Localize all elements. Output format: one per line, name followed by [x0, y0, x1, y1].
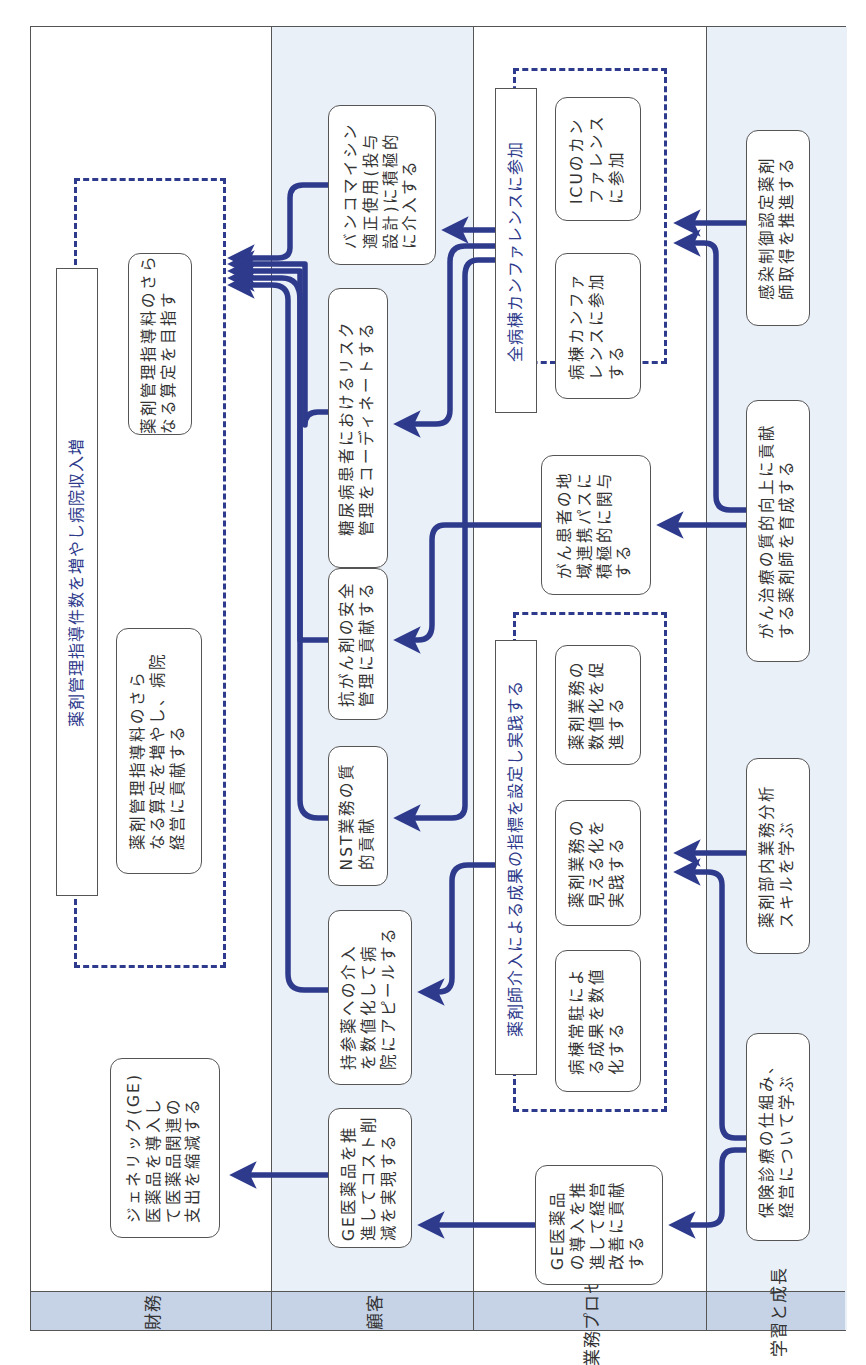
perspective-label-customer: 顧客 [271, 1292, 473, 1330]
node-lea-analysis: 薬剤部内業務分析 スキルを学ぶ [746, 758, 810, 954]
node-fin-generic: ジェネリック(GE) 医薬品を導入し て医薬品関連の 支出を縮減する [110, 1058, 220, 1238]
node-pro-icu: ICUのカン ファレンス に参加 [555, 97, 641, 221]
group-conference-title: 全病棟カンファレンスに参加 [495, 88, 537, 413]
node-fin-fee-goal: 薬剤管理指導料のさら なる算定を目指す [128, 253, 192, 435]
perspective-label-learning: 学習と成長 [706, 1292, 847, 1330]
node-pro-cancer-path: がん患者の地 域連携パスに 積極的に関与 する [541, 455, 651, 595]
perspective-label-financial: 財務 [31, 1292, 271, 1330]
node-lea-infection: 感染制御認定薬剤 師取得を推進する [746, 130, 810, 326]
perspective-header-strip: 財務 顧客 業務プロセス 学習と成長 [31, 1291, 845, 1330]
node-cus-vancomycin: バンコマイシン 適正使用(投与 設計)に積極的 に介入する [328, 105, 436, 265]
node-cus-nst: NST業務の質 的貢献 [328, 746, 388, 886]
node-pro-ward-conf: 病棟カンファ レンスに参加 する [555, 253, 641, 399]
node-lea-cancer-quality: がん治療の質的向上に貢献 する薬剤師を育成する [746, 400, 810, 662]
node-lea-insurance: 保険診療の仕組み、 経営について学ぶ [746, 1033, 810, 1241]
group-revenue-title: 薬剤管理指導件数を増やし病院収入増 [56, 268, 98, 896]
node-cus-anticancer: 抗がん剤の安全 管理に貢献する [328, 568, 388, 720]
group-indicators-title: 薬剤師介入による成果の指標を設定し実践する [495, 640, 537, 1075]
node-pro-ge-mgmt: GE医薬品 の導入を推 進して経営 改善に貢献 する [535, 1165, 663, 1285]
node-cus-diabetes: 糖尿病患者におけるリスク 管理をコーディネートする [328, 288, 388, 568]
node-pro-ward-resident: 病棟常駐によ る成果を数値 化する [555, 950, 641, 1092]
perspective-label-process: 業務プロセス [473, 1292, 706, 1330]
node-cus-brought-drugs: 持参薬への介入 を数値化して病 院にアピールする [328, 910, 412, 1085]
node-pro-visualize: 薬剤業務の 見える化を 実践する [555, 800, 641, 926]
node-fin-fee-contrib: 薬剤管理指導料のさら なる算定を増やし、病院 経営に貢献する [116, 628, 202, 874]
node-cus-ge-cost: GE医薬品を推 進してコスト削 減を実現する [328, 1108, 412, 1248]
node-pro-promote-numbers: 薬剤業務の 数値化を促 進する [555, 645, 641, 765]
